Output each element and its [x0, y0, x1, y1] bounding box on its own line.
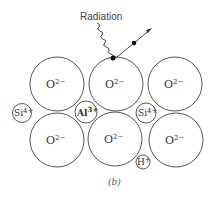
- oxygen-ion-top-left: O2−: [30, 57, 84, 111]
- oxygen-ion-bottom-right: O2−: [149, 113, 203, 167]
- figure-caption: (b): [108, 177, 121, 187]
- hydrogen-ion: H+: [136, 155, 151, 169]
- surface-particle-dot: [111, 56, 116, 61]
- oxygen-ion-bottom-middle: O2−: [88, 112, 142, 166]
- oxygen-ion-bottom-left: O2−: [30, 113, 84, 167]
- surface-ion-diagram: Radiation O2− O2− O2− O2− O2− O2− Si4+ A…: [0, 0, 217, 197]
- silicon-ion-right: Si4+: [136, 103, 158, 123]
- incoming-radiation-wave-icon: [97, 23, 117, 58]
- oxygen-ion-top-right: O2−: [148, 57, 202, 111]
- aluminum-ion: Al3+: [75, 101, 98, 123]
- silicon-ion-left: Si4+: [13, 104, 34, 123]
- radiation-label: Radiation: [80, 11, 122, 22]
- ejected-particle-dot: [132, 41, 137, 46]
- oxygen-ion-top-middle: O2−: [89, 57, 143, 111]
